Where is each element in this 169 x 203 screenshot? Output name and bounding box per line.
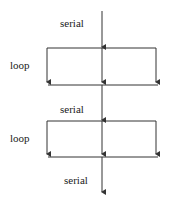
label-serial-2: serial [60,103,84,115]
label-loop-2: loop [10,132,30,144]
serial-loop-diagram: serial loop serial loop serial [0,0,169,203]
label-serial-1: serial [60,17,84,29]
label-loop-1: loop [10,59,30,71]
label-serial-3: serial [64,174,88,186]
